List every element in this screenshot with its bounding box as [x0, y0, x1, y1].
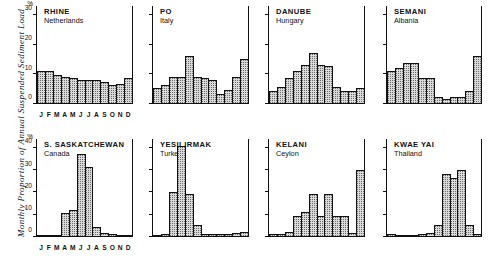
y-axis-tick [383, 214, 386, 215]
y-axis-tick [149, 214, 152, 215]
y-axis-tick [149, 44, 152, 45]
plot-area [268, 139, 365, 237]
panel-semani: SEMANIAlbania [372, 2, 484, 126]
bar-series [153, 139, 248, 236]
y-axis-tick [383, 14, 386, 15]
bar-d-11 [473, 234, 482, 236]
panel-kwae-yai: KWAE YAIThailand [372, 135, 484, 259]
bar-d-11 [240, 59, 249, 103]
bar-d-11 [124, 235, 133, 236]
plot-area [268, 6, 365, 104]
panel-danube: DANUBEHungary [254, 2, 367, 126]
month-label: J [37, 111, 45, 118]
y-axis-tick [149, 103, 152, 104]
x-axis-line [36, 103, 133, 104]
month-label: N [116, 111, 124, 118]
month-label: D [124, 244, 132, 251]
y-axis-tick [265, 236, 268, 237]
y-axis-tick [149, 236, 152, 237]
y-axis-tick [149, 169, 152, 170]
month-label: J [37, 244, 45, 251]
panel-right-rule [132, 139, 133, 237]
bar-series [387, 6, 481, 103]
month-label: M [69, 111, 77, 118]
month-label: J [77, 244, 85, 251]
y-axis-tick [33, 103, 36, 104]
panel-grid: RHINENetherlands0102030%JFMAMJJASOND POI… [22, 2, 488, 265]
y-axis-tick-label: 10 [25, 65, 32, 72]
month-label: M [53, 244, 61, 251]
month-label: J [85, 244, 93, 251]
bar-series [37, 139, 132, 236]
y-axis-tick [265, 214, 268, 215]
month-label: A [92, 111, 100, 118]
y-axis-tick [265, 191, 268, 192]
y-axis-tick [33, 169, 36, 170]
bar-d-11 [356, 88, 365, 103]
y-axis-tick [383, 103, 386, 104]
panel-right-rule [481, 139, 482, 237]
percent-symbol-label: % [27, 134, 33, 141]
x-axis-line [268, 103, 365, 104]
y-axis-tick [33, 14, 36, 15]
bar-series [269, 139, 364, 236]
sediment-load-figure: Monthly Proportion of Annual Suspended S… [0, 0, 490, 267]
y-axis-tick [33, 73, 36, 74]
y-axis-tick [265, 169, 268, 170]
x-axis-line [386, 103, 482, 104]
y-axis-tick [265, 147, 268, 148]
panel-kelani: KELANICeylon [254, 135, 367, 259]
y-axis-tick-label: 0 [28, 227, 32, 234]
y-axis-tick [265, 44, 268, 45]
panel-rhine: RHINENetherlands0102030%JFMAMJJASOND [22, 2, 135, 126]
y-axis-tick [383, 44, 386, 45]
y-axis-tick [383, 236, 386, 237]
bar-d-11 [240, 232, 249, 236]
x-axis-line [36, 236, 133, 237]
bar-series [153, 6, 248, 103]
panel-row-top: RHINENetherlands0102030%JFMAMJJASOND POI… [22, 2, 488, 126]
y-axis-tick [33, 44, 36, 45]
panel-right-rule [248, 139, 249, 237]
bar-series [269, 6, 364, 103]
y-axis-tick [383, 191, 386, 192]
y-axis-tick [149, 73, 152, 74]
bar-d-11 [356, 170, 365, 236]
y-axis-tick [149, 147, 152, 148]
month-label: J [77, 111, 85, 118]
month-label: F [45, 244, 53, 251]
month-label: A [61, 111, 69, 118]
month-label: N [116, 244, 124, 251]
x-axis-month-labels: JFMAMJJASOND [37, 111, 132, 118]
y-axis-tick [383, 147, 386, 148]
month-label: A [61, 244, 69, 251]
y-axis-tick [265, 103, 268, 104]
y-axis-tick [33, 147, 36, 148]
month-label: F [45, 111, 53, 118]
y-axis-tick [149, 14, 152, 15]
x-axis-line [152, 103, 249, 104]
plot-area: 0102030% [36, 6, 133, 104]
month-label: O [108, 111, 116, 118]
y-axis-tick [33, 214, 36, 215]
bar-d-11 [124, 78, 133, 103]
y-axis-tick-label: 20 [25, 183, 32, 190]
panel-row-bottom: S. SASKATCHEWANCanada010203040%JFMAMJJAS… [22, 135, 488, 259]
y-axis-tick [149, 191, 152, 192]
bar-series [387, 139, 481, 236]
month-label: A [92, 244, 100, 251]
plot-area [152, 6, 249, 104]
y-axis-tick [383, 169, 386, 170]
y-axis-tick-label: 30 [25, 161, 32, 168]
month-label: M [53, 111, 61, 118]
y-axis-tick-label: 0 [28, 94, 32, 101]
y-axis-tick [33, 236, 36, 237]
bar-series [37, 6, 132, 103]
bar-j-6 [85, 167, 94, 236]
month-label: S [100, 111, 108, 118]
month-label: S [100, 244, 108, 251]
percent-symbol-label: % [27, 1, 33, 8]
y-axis-tick-label: 20 [25, 35, 32, 42]
month-label: M [69, 244, 77, 251]
x-axis-line [152, 236, 249, 237]
